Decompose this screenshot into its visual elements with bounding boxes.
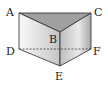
label-c: C bbox=[94, 6, 102, 19]
label-d: D bbox=[6, 45, 15, 58]
label-b: B bbox=[49, 33, 57, 46]
label-f: F bbox=[93, 45, 101, 58]
label-e: E bbox=[55, 70, 63, 83]
label-a: A bbox=[5, 6, 15, 19]
triangular-prism-diagram: A C B D F E bbox=[0, 0, 108, 87]
